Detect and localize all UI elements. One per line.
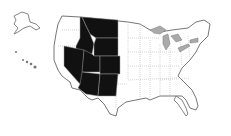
state-colorado: [100, 56, 120, 74]
us-map: [0, 0, 231, 136]
hawaii: [15, 51, 37, 69]
alaska: [14, 12, 40, 34]
state-arizona: [78, 72, 100, 96]
state-new-mexico: [98, 74, 118, 96]
state-wyoming: [94, 38, 118, 56]
